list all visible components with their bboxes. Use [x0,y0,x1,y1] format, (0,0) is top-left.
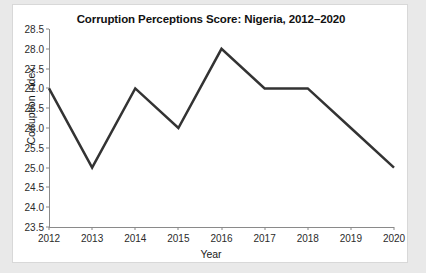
y-tick-label: 24.5 [25,182,44,193]
chart-title: Corruption Perceptions Score: Nigeria, 2… [13,13,409,25]
y-tick-label: 27.5 [25,63,44,74]
x-tick-label: 2015 [167,233,189,244]
x-tick-mark [178,227,179,230]
x-tick-label: 2018 [297,233,319,244]
x-tick-mark [49,227,50,230]
x-tick-label: 2013 [81,233,103,244]
y-tick-label: 23.5 [25,222,44,233]
y-tick-label: 27.0 [25,83,44,94]
x-tick-mark [264,227,265,230]
x-tick-mark [221,227,222,230]
x-tick-label: 2014 [124,233,146,244]
y-tick-label: 26.5 [25,103,44,114]
y-tick-label: 26.0 [25,123,44,134]
x-tick-mark [92,227,93,230]
x-tick-mark [350,227,351,230]
chart-card: Corruption Perceptions Score: Nigeria, 2… [12,4,408,263]
x-tick-label: 2020 [383,233,405,244]
y-tick-label: 25.5 [25,142,44,153]
line-series [49,29,394,227]
x-tick-label: 2019 [340,233,362,244]
plot-area: 23.524.024.525.025.526.026.527.027.528.0… [49,29,394,227]
x-axis-label: Year [13,248,409,260]
x-tick-mark [307,227,308,230]
y-tick-label: 28.5 [25,24,44,35]
x-tick-mark [135,227,136,230]
y-tick-label: 24.0 [25,202,44,213]
x-tick-label: 2017 [254,233,276,244]
chart-page: Corruption Perceptions Score: Nigeria, 2… [0,0,426,273]
y-tick-label: 28.0 [25,43,44,54]
corruption-index-line [49,49,394,168]
x-tick-label: 2012 [38,233,60,244]
x-tick-label: 2016 [210,233,232,244]
x-tick-mark [394,227,395,230]
y-tick-label: 25.0 [25,162,44,173]
